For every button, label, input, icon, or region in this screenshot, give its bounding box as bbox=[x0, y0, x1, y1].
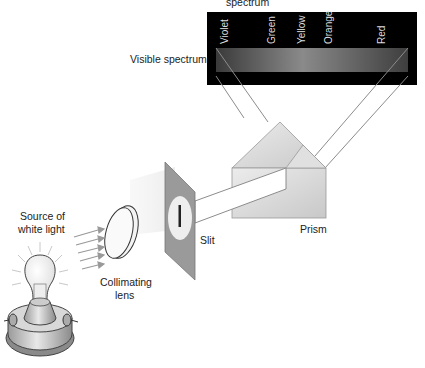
label-red: Red bbox=[376, 26, 387, 44]
label-green: Green bbox=[266, 16, 277, 44]
light-arrows bbox=[74, 227, 104, 269]
lamp-base bbox=[4, 298, 78, 356]
label-violet: Violet bbox=[219, 19, 230, 44]
prism-label: Prism bbox=[300, 223, 327, 235]
source-label-line2: white light bbox=[17, 223, 65, 235]
slit-label: Slit bbox=[200, 234, 215, 246]
label-yellow: Yellow bbox=[296, 15, 307, 44]
source-label-line1: Source of bbox=[20, 210, 65, 222]
slit-plate bbox=[165, 162, 195, 280]
title-fragment: spectrum bbox=[226, 0, 269, 8]
label-orange: Orange bbox=[323, 10, 334, 44]
spectroscope-diagram: spectrum Violet Green Yellow Orange Red … bbox=[0, 0, 425, 368]
visible-spectrum-label: Visible spectrum bbox=[130, 53, 207, 65]
light-bulb bbox=[12, 242, 68, 302]
lens-label-line1: Collimating bbox=[100, 276, 152, 288]
lens-label-line2: lens bbox=[115, 289, 134, 301]
